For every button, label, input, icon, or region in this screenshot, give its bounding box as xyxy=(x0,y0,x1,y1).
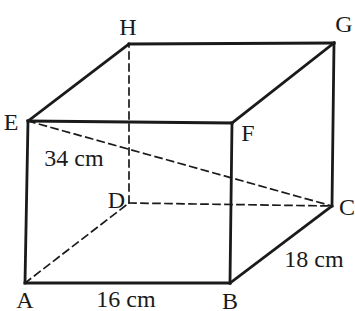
edge-GF xyxy=(232,43,334,123)
vertex-label-D: D xyxy=(108,187,125,213)
edge-FE xyxy=(28,121,232,123)
edge-BF xyxy=(230,123,232,283)
cuboid-diagram: ABCDEFGH34 cm16 cm18 cm xyxy=(0,0,355,311)
edge-GC xyxy=(332,43,334,206)
vertex-label-H: H xyxy=(119,14,136,40)
edge-HG xyxy=(129,43,334,44)
hidden-edge-AD xyxy=(25,203,129,283)
vertex-label-B: B xyxy=(222,288,238,311)
vertex-label-A: A xyxy=(16,287,34,311)
vertex-label-G: G xyxy=(335,11,352,37)
figure-container: ABCDEFGH34 cm16 cm18 cm xyxy=(0,0,355,311)
edge-EH xyxy=(28,44,129,121)
edge-EA xyxy=(25,121,28,283)
measurement-label-EC: 34 cm xyxy=(44,145,104,171)
vertex-label-F: F xyxy=(241,120,254,146)
vertex-label-C: C xyxy=(339,194,355,220)
vertex-label-E: E xyxy=(4,109,19,135)
measurement-label-BC: 18 cm xyxy=(284,246,344,272)
measurement-label-AB: 16 cm xyxy=(96,286,156,311)
